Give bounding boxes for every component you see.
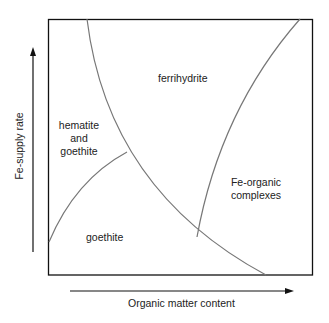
region-fe-organic-complexes: Fe-organic complexes <box>228 176 284 202</box>
region-ferrihydrite: ferrihydrite <box>158 72 208 85</box>
y-axis-label: Fe-supply rate <box>13 106 25 186</box>
region-label-line: and <box>58 132 100 145</box>
y-arrow-head-icon <box>30 47 36 56</box>
region-label-line: complexes <box>228 189 284 202</box>
hematite-goethite-boundary <box>49 152 127 242</box>
x-arrow-head-icon <box>285 288 294 294</box>
region-hematite-goethite: hematite and goethite <box>58 119 100 158</box>
region-label-line: Fe-organic <box>228 176 284 189</box>
region-goethite: goethite <box>86 231 123 244</box>
region-label-line: hematite <box>58 119 100 132</box>
phase-diagram <box>0 0 329 323</box>
region-label-line: goethite <box>58 145 100 158</box>
x-axis-label: Organic matter content <box>128 297 235 310</box>
fe-organic-boundary <box>197 19 300 237</box>
